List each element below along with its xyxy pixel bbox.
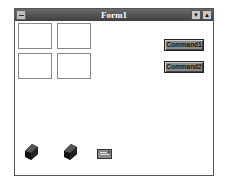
title-bar[interactable]: Form1 ▼ ▲ (15, 9, 213, 21)
frame-1[interactable] (18, 23, 52, 49)
command2-button[interactable]: Command2 (164, 61, 204, 73)
command1-button[interactable]: Command1 (164, 39, 204, 51)
minimize-button[interactable]: ▼ (191, 10, 201, 20)
form-window: Form1 ▼ ▲ Command1 Command2 (14, 8, 214, 176)
cylinder-control-icon[interactable] (62, 143, 78, 161)
form-design-surface[interactable]: Command1 Command2 (15, 21, 213, 175)
frame-3[interactable] (18, 53, 52, 79)
frame-2[interactable] (57, 23, 91, 49)
window-title: Form1 (15, 9, 213, 21)
maximize-button[interactable]: ▲ (202, 10, 212, 20)
cylinder-control-icon[interactable] (23, 143, 39, 161)
envelope-control-icon[interactable] (97, 149, 112, 159)
frame-4[interactable] (57, 53, 91, 79)
